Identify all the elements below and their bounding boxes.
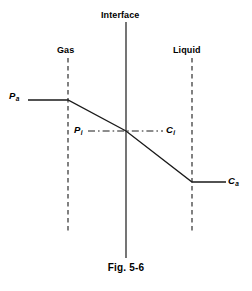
interface-liquid-concentration-symbol: C [166,124,173,135]
interface-label: Interface [101,11,139,20]
figure-diagram [0,0,252,291]
interface-gas-pressure-subscript: i [80,129,82,136]
concentration-profile-line [28,100,226,182]
interface-liquid-concentration-label: Ci [166,125,175,137]
bulk-liquid-concentration-label: Ca [228,176,239,188]
bulk-gas-pressure-label: Pa [9,91,19,103]
bulk-liquid-concentration-symbol: C [228,175,235,186]
figure-container: Interface Gas Liquid Pa Pi Ci Ca Fig. 5-… [0,0,252,291]
interface-gas-pressure-label: Pi [74,125,82,137]
bulk-gas-pressure-subscript: a [15,95,19,102]
bulk-liquid-concentration-subscript: a [235,180,239,187]
figure-caption: Fig. 5-6 [0,262,252,273]
liquid-region-label: Liquid [173,46,201,55]
interface-liquid-concentration-subscript: i [173,129,175,136]
gas-region-label: Gas [57,46,74,55]
